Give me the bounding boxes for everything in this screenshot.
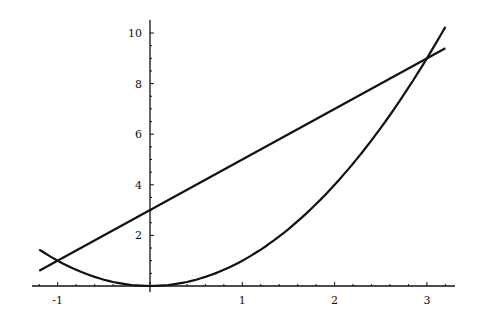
y-tick-label: 2 xyxy=(135,229,142,242)
x-tick-label: -1 xyxy=(52,294,63,307)
y-tick-label: 6 xyxy=(135,128,142,141)
y-tick-label: 10 xyxy=(128,27,142,40)
y-tick-label: 8 xyxy=(135,78,142,91)
parabola-curve xyxy=(39,27,445,286)
x-tick-label: 1 xyxy=(239,294,246,307)
plot-area: -1123246810 xyxy=(0,0,486,324)
x-tick-label: 2 xyxy=(331,294,338,307)
chart: -1123246810 xyxy=(0,0,486,324)
y-tick-label: 4 xyxy=(135,179,142,192)
x-tick-label: 3 xyxy=(423,294,430,307)
linear-curve xyxy=(39,48,445,271)
